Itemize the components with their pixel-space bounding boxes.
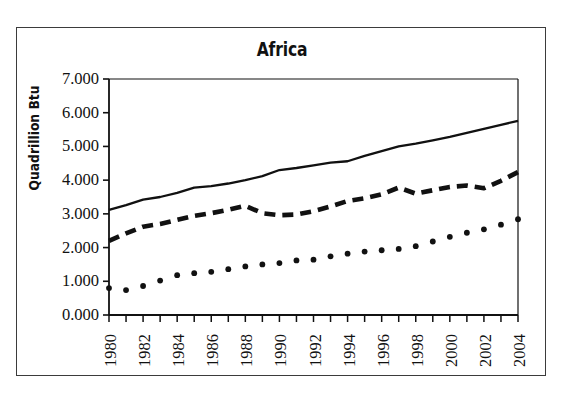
y-tick-label: 7.000 (41, 69, 99, 89)
x-tick-label: 1992 (306, 334, 326, 367)
x-tick-label: 1998 (408, 334, 428, 367)
data-point-dotted-series (140, 283, 146, 289)
chart-figure: Africa Quadrillion Btu 7.0006.0005.0004.… (0, 0, 564, 398)
x-tick-label: 1988 (237, 334, 257, 367)
x-tick-label: 1984 (169, 334, 189, 367)
data-line-dashed-series (109, 172, 518, 241)
x-tick-label: 1986 (203, 334, 223, 367)
x-tick-label: 1980 (101, 334, 121, 367)
x-tick-label: 1982 (135, 334, 155, 367)
x-tick-label: 2002 (476, 334, 496, 367)
y-tick-label: 3.000 (41, 204, 99, 224)
x-tick-label: 1996 (374, 334, 394, 367)
y-tick-label: 5.000 (41, 136, 99, 156)
data-point-dotted-series (413, 243, 419, 249)
data-point-dotted-series (396, 246, 402, 252)
data-point-dotted-series (208, 269, 214, 275)
data-line-solid-series (109, 121, 518, 210)
data-point-dotted-series (430, 239, 436, 245)
x-tick-label: 2000 (442, 334, 462, 367)
data-point-dotted-series (106, 285, 112, 291)
x-tick-label: 1990 (271, 334, 291, 367)
data-point-dotted-series (277, 260, 283, 266)
data-point-dotted-series (311, 257, 317, 263)
y-tick-label: 6.000 (41, 103, 99, 123)
data-point-dotted-series (345, 251, 351, 257)
axes-group (109, 79, 518, 315)
y-tick-label: 2.000 (41, 238, 99, 258)
axis-ticks (103, 79, 518, 322)
data-point-dotted-series (328, 253, 334, 259)
x-tick-label: 2004 (510, 334, 530, 367)
data-point-dotted-series (242, 264, 248, 270)
data-point-dotted-series (174, 272, 180, 278)
y-tick-label: 4.000 (41, 170, 99, 190)
y-tick-label: 0.000 (41, 305, 99, 325)
data-point-dotted-series (515, 216, 521, 222)
data-point-dotted-series (481, 226, 487, 232)
data-point-dotted-series (294, 257, 300, 263)
data-point-dotted-series (464, 230, 470, 236)
data-point-dotted-series (379, 247, 385, 253)
data-point-dotted-series (362, 249, 368, 255)
x-tick-label: 1994 (340, 334, 360, 367)
data-point-dotted-series (498, 222, 504, 228)
data-point-dotted-series (259, 262, 265, 268)
data-series-group (106, 121, 521, 293)
data-point-dotted-series (123, 287, 129, 293)
data-point-dotted-series (447, 234, 453, 240)
data-point-dotted-series (191, 270, 197, 276)
data-point-dotted-series (157, 278, 163, 284)
y-tick-label: 1.000 (41, 271, 99, 291)
data-point-dotted-series (225, 266, 231, 272)
